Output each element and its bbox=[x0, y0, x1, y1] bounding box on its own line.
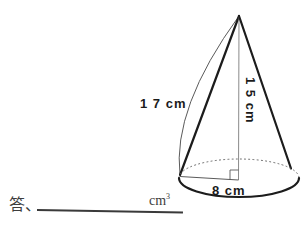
answer-unit: cm3 bbox=[149, 192, 170, 209]
answer-prefix: 答、 bbox=[9, 191, 41, 215]
answer-unit-exponent: 3 bbox=[166, 192, 170, 201]
slant-height-line bbox=[180, 16, 239, 175]
worksheet: 1 7 cm 1 5 cm 8 cm 答、 cm3 bbox=[0, 0, 307, 225]
right-angle-marker bbox=[230, 170, 239, 180]
height-length-label: 1 5 cm bbox=[243, 77, 258, 123]
radius-length-label: 8 cm bbox=[212, 183, 246, 198]
cone-height-line bbox=[239, 16, 240, 180]
answer-unit-base: cm bbox=[149, 193, 166, 208]
slant-length-label: 1 7 cm bbox=[140, 96, 186, 111]
